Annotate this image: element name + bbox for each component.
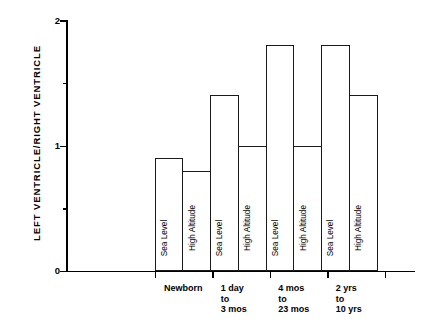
bar-label-4: High Altitude xyxy=(243,205,252,251)
bar-8: High Altitude xyxy=(349,95,378,271)
bar-label-6: High Altitude xyxy=(299,205,308,251)
x-tick-group-end xyxy=(385,271,387,278)
x-tick-group-1 xyxy=(155,271,157,278)
x-group-label-line: 10 yrs xyxy=(310,304,402,315)
y-tick-minor-1-5 xyxy=(63,83,67,85)
bar-3: Sea Level xyxy=(210,95,239,271)
plot-area: Sea LevelHigh AltitudeSea LevelHigh Alti… xyxy=(68,20,415,271)
bar-5: Sea Level xyxy=(266,45,295,271)
bar-6: High Altitude xyxy=(293,146,322,272)
bar-4: High Altitude xyxy=(238,146,267,272)
chart-container: LEFT VENTRICLE/RIGHT VENTRICLE 2 1 0 Sea… xyxy=(0,0,432,328)
y-tick-0 xyxy=(60,271,66,273)
bar-1: Sea Level xyxy=(155,158,184,271)
x-tick-group-4 xyxy=(327,271,329,278)
y-tick-1 xyxy=(60,146,66,148)
bar-label-3: Sea Level xyxy=(215,220,224,256)
x-group-label-line: 2 yrs xyxy=(310,283,402,294)
bar-label-5: Sea Level xyxy=(271,220,280,256)
bar-label-8: High Altitude xyxy=(354,205,363,251)
bar-label-1: Sea Level xyxy=(160,220,169,256)
y-tick-minor-0-5 xyxy=(63,208,67,210)
bar-2: High Altitude xyxy=(182,171,211,271)
bar-7: Sea Level xyxy=(321,45,350,271)
y-tick-2 xyxy=(60,20,66,22)
y-tick-label-0: 0 xyxy=(40,266,60,275)
bar-label-2: High Altitude xyxy=(188,205,197,251)
x-group-label-4: 2 yrsto10 yrs xyxy=(310,283,402,315)
x-group-label-line: to xyxy=(310,294,402,305)
x-tick-group-2 xyxy=(212,271,214,278)
bar-label-7: Sea Level xyxy=(326,220,335,256)
y-tick-label-1: 1 xyxy=(40,141,60,150)
y-tick-label-2: 2 xyxy=(40,16,60,25)
bar-series-group: Sea LevelHigh AltitudeSea LevelHigh Alti… xyxy=(155,20,385,271)
x-tick-group-3 xyxy=(270,271,272,278)
